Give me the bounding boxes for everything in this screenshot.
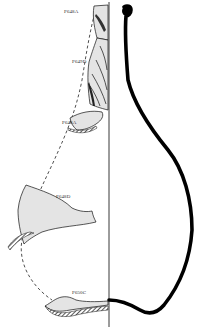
sherd-neck	[88, 38, 108, 110]
sherd-label: P650C	[72, 290, 86, 295]
vessel-profile-right	[109, 6, 192, 313]
sherd-label: P648A	[62, 120, 76, 125]
sherd-body	[8, 185, 96, 250]
sherd-label: P649D	[72, 59, 86, 64]
sherd-label: P648D	[56, 194, 70, 199]
sherd-rim	[93, 5, 108, 40]
sherd-label: P648A	[64, 9, 78, 14]
sherd-base	[45, 297, 108, 317]
vessel-drawing-svg	[0, 0, 220, 329]
reconstruction-dashed-line	[21, 8, 96, 300]
vessel-drawing: P648A P649D P648A P648D P650C	[0, 0, 220, 329]
